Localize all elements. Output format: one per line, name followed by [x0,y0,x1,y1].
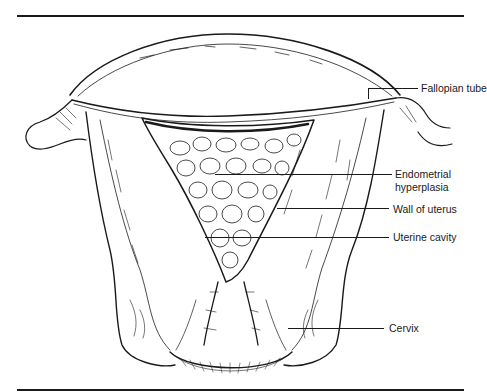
label-endometrial-hyperplasia-line2: hyperplasia [395,181,449,193]
bottom-divider-rule [17,389,464,391]
left-fallopian-tube [26,100,86,149]
uterus-left-wall [86,112,175,366]
leader-uterine-cavity [205,237,389,238]
fundus-outline [70,34,400,95]
cervix-drawing [170,282,292,373]
label-wall-of-uterus: Wall of uterus [393,203,457,215]
label-uterine-cavity: Uterine cavity [393,231,457,243]
label-fallopian-tube: Fallopian tube [421,82,487,94]
leader-fallopian-tube-vert [368,88,369,99]
leader-wall-of-uterus [277,208,389,209]
label-endometrial-hyperplasia-line1: Endometrial [395,168,451,180]
leader-fallopian-tube [368,88,418,89]
leader-endometrial-hyperplasia [215,174,392,175]
leader-cervix [288,328,384,329]
label-cervix: Cervix [389,322,419,334]
right-fallopian-tube [396,98,452,146]
